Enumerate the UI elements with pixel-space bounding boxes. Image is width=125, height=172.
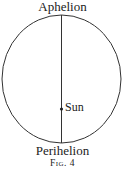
perihelion-label: Perihelion: [0, 143, 125, 159]
figure-caption: Fig. 4: [0, 158, 125, 168]
sun-label: Sun: [65, 100, 84, 115]
sun-dot: [60, 107, 63, 110]
